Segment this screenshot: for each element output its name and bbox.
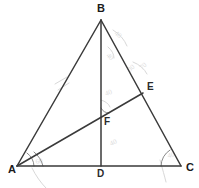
erased-mark-below-A <box>32 168 46 188</box>
segment-side-AB <box>17 20 101 166</box>
erased-label-below-B: 40 <box>105 52 116 63</box>
segment-cevian-AE <box>17 93 143 166</box>
erased-label-near-E: 70 <box>138 61 149 72</box>
geometry-figure-canvas: 40 40 30 70 40 40 60 40 <box>0 0 199 188</box>
point-label-D: D <box>97 168 104 179</box>
segments-layer <box>17 20 181 166</box>
erased-label-near-F: 40 <box>104 88 114 98</box>
angle-marks-layer <box>27 108 170 166</box>
point-label-E: E <box>147 81 154 92</box>
vertex-label-A: A <box>8 163 16 175</box>
erased-label-near-D: 40 <box>108 137 118 147</box>
vertex-label-C: C <box>186 161 194 173</box>
faint-pencil-layer: 40 40 30 70 40 40 60 40 <box>32 29 176 188</box>
vertex-label-B: B <box>97 2 105 14</box>
angle-arc-at-F <box>101 108 109 113</box>
triangle-diagram: 40 40 30 70 40 40 60 40 <box>0 0 199 188</box>
erased-mark-near-F <box>101 100 110 107</box>
point-label-F: F <box>104 116 110 127</box>
